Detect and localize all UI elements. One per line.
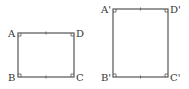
label-a-prime: A': [100, 4, 111, 15]
rectangle-abcd-prime: A' D' B' C': [100, 4, 181, 83]
label-b-prime: B': [101, 72, 111, 83]
rectangles-diagram: A D B C A' D' B' C': [0, 0, 189, 89]
label-c: C: [76, 72, 84, 83]
label-a: A: [7, 28, 16, 39]
label-c-prime: C': [170, 72, 180, 83]
label-b: B: [8, 72, 15, 83]
label-d-prime: D': [170, 4, 181, 15]
rectangle-abcd: A D B C: [7, 28, 84, 83]
label-d: D: [76, 28, 84, 39]
